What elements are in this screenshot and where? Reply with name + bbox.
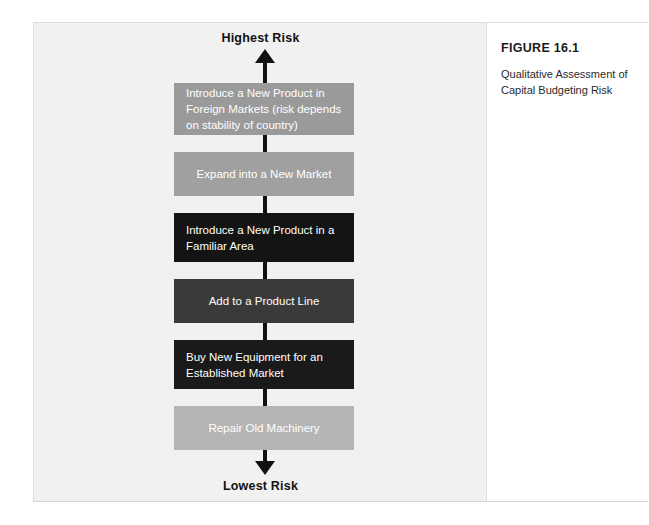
risk-box-label: Repair Old Machinery xyxy=(208,420,319,436)
figure-frame: Highest Risk Introduce a New Product in … xyxy=(33,22,648,502)
risk-box: Introduce a New Product in Foreign Marke… xyxy=(174,83,354,135)
arrow-down-icon xyxy=(255,461,275,475)
risk-box: Expand into a New Market xyxy=(174,152,354,196)
risk-box: Repair Old Machinery xyxy=(174,406,354,450)
risk-box-label: Introduce a New Product in Foreign Marke… xyxy=(186,85,342,133)
risk-box-label: Buy New Equipment for an Established Mar… xyxy=(186,349,342,381)
risk-box-label: Add to a Product Line xyxy=(209,293,320,309)
figure-caption-text: Qualitative Assessment of Capital Budget… xyxy=(501,67,634,98)
risk-box: Buy New Equipment for an Established Mar… xyxy=(174,340,354,389)
risk-box-label: Introduce a New Product in a Familiar Ar… xyxy=(186,222,342,254)
lowest-risk-label: Lowest Risk xyxy=(34,479,487,493)
risk-box-label: Expand into a New Market xyxy=(197,166,332,182)
risk-ladder-diagram: Highest Risk Introduce a New Product in … xyxy=(34,23,487,501)
figure-number: FIGURE 16.1 xyxy=(501,41,634,55)
figure-caption-panel: FIGURE 16.1 Qualitative Assessment of Ca… xyxy=(487,23,648,501)
risk-box: Add to a Product Line xyxy=(174,279,354,323)
arrow-up-icon xyxy=(255,49,275,63)
risk-box: Introduce a New Product in a Familiar Ar… xyxy=(174,213,354,262)
highest-risk-label: Highest Risk xyxy=(34,31,487,45)
